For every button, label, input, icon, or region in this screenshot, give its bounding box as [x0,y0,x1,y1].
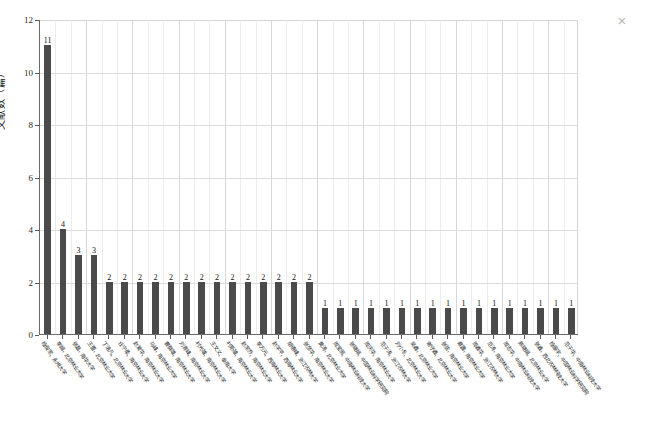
bar-value-label: 1 [369,299,373,308]
bar-value-label: 2 [184,273,188,282]
x-axis-tick-mark [478,335,479,339]
gridline-vertical [456,20,457,334]
x-axis-tick-mark [309,335,310,339]
bar-value-label: 1 [569,299,573,308]
bar[interactable] [553,308,559,334]
bar[interactable] [491,308,497,334]
y-axis-tick-label: 10 [24,68,33,78]
bar[interactable] [291,282,297,335]
bar[interactable] [106,282,112,335]
bar[interactable] [506,308,512,334]
bar-value-label: 2 [215,273,219,282]
bar-value-label: 1 [400,299,404,308]
bar[interactable] [368,308,374,334]
x-axis-tick-mark [370,335,371,339]
bar-value-label: 1 [554,299,558,308]
gridline-vertical [102,20,103,334]
x-axis-tick-mark [170,335,171,339]
x-axis-tick-mark [185,335,186,339]
bar[interactable] [183,282,189,335]
bar[interactable] [537,308,543,334]
bar-value-label: 2 [277,273,281,282]
bar[interactable] [460,308,466,334]
x-axis-tick-mark [416,335,417,339]
gridline-horizontal [40,73,578,74]
x-axis-tick-mark [432,335,433,339]
x-axis-tick-mark [216,335,217,339]
bar-value-label: 2 [123,273,127,282]
x-axis-tick-mark [247,335,248,339]
x-axis-tick-label: 蔡震，南京林业大学 [455,340,485,380]
gridline-vertical [86,20,87,334]
x-axis-tick-mark [509,335,510,339]
bar[interactable] [445,308,451,334]
x-axis-tick-mark [555,335,556,339]
bar[interactable] [229,282,235,335]
gridline-vertical [333,20,334,334]
bar[interactable] [75,255,81,334]
gridline-vertical [271,20,272,334]
bar[interactable] [322,308,328,334]
y-axis-tick-label: 4 [29,225,34,235]
x-axis-tick-mark [324,335,325,339]
y-axis-tick-label: 2 [29,278,34,288]
bar[interactable] [91,255,97,334]
bar[interactable] [414,308,420,334]
bar-value-label: 2 [154,273,158,282]
y-axis-tick-label: 12 [24,15,33,25]
x-axis-tick-mark [47,335,48,339]
x-axis-tick-mark [355,335,356,339]
x-axis-tick-mark [262,335,263,339]
bar[interactable] [245,282,251,335]
x-axis-tick-mark [62,335,63,339]
bar-value-label: 1 [462,299,466,308]
gridline-vertical [564,20,565,334]
gridline-horizontal [40,125,578,126]
bar-value-label: 3 [92,246,96,255]
bar-value-label: 2 [138,273,142,282]
x-axis-tick-mark [155,335,156,339]
bar-value-label: 11 [44,36,52,45]
gridline-vertical [117,20,118,334]
bar[interactable] [168,282,174,335]
bar[interactable] [306,282,312,335]
close-icon[interactable]: × [615,14,629,28]
bar[interactable] [399,308,405,334]
bar[interactable] [352,308,358,334]
bar-value-label: 1 [323,299,327,308]
bar[interactable] [60,229,66,334]
bar[interactable] [429,308,435,334]
bar[interactable] [152,282,158,335]
x-axis-tick-mark [401,335,402,339]
x-axis-tick-mark [570,335,571,339]
y-axis-tick-labels: 024681012 [0,20,33,335]
gridline-vertical [71,20,72,334]
bar[interactable] [137,282,143,335]
bar[interactable] [260,282,266,335]
bar[interactable] [198,282,204,335]
gridline-vertical [256,20,257,334]
bar-value-label: 2 [292,273,296,282]
y-axis-tick-label: 0 [29,330,34,340]
plot-area: 114332222222222222211111111111111111 [39,20,578,335]
bar-value-label: 1 [477,299,481,308]
gridline-vertical [179,20,180,334]
bar[interactable] [214,282,220,335]
bar[interactable] [337,308,343,334]
bar-value-label: 2 [169,273,173,282]
bar[interactable] [476,308,482,334]
bar[interactable] [568,308,574,334]
bar[interactable] [383,308,389,334]
bar-value-label: 1 [539,299,543,308]
x-axis-tick-mark [447,335,448,339]
gridline-vertical [302,20,303,334]
bar-value-label: 1 [492,299,496,308]
x-axis-tick-mark [540,335,541,339]
gridline-vertical [132,20,133,334]
gridline-vertical [394,20,395,334]
bar[interactable] [275,282,281,335]
bar[interactable] [44,45,50,334]
bar[interactable] [522,308,528,334]
x-axis-tick-mark [524,335,525,339]
bar[interactable] [121,282,127,335]
